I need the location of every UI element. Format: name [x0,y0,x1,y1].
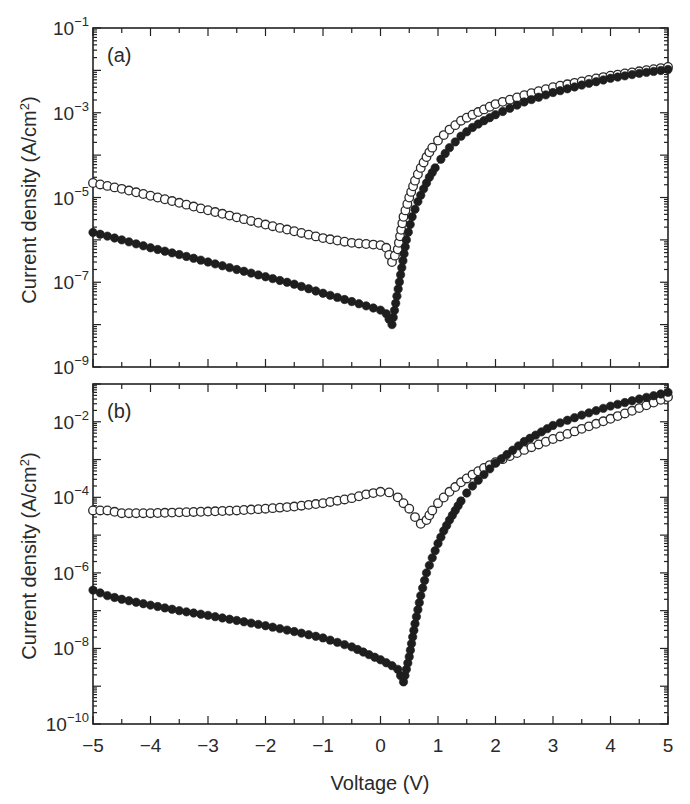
y-tick-label: 10−10 [46,710,89,735]
y-tick-label: 10−7 [53,268,89,293]
y-tick-label: 10−8 [53,634,89,659]
y-axis-title-a: Current density (A/cm2) [17,96,41,303]
panel-b: 10−210−410−610−810−10−5−4−3−2−1012345(b) [46,384,673,756]
x-axis-title: Voltage (V) [331,772,430,794]
x-tick-label: 4 [605,735,616,756]
x-tick-label: 2 [490,735,501,756]
y-tick-label: 10−2 [53,408,89,433]
y-tick-label: 10−1 [53,14,89,39]
y-tick-label: 10−9 [53,353,89,378]
x-tick-label: −3 [197,735,219,756]
series-open-circles-a [89,63,673,267]
series-filled-circles-b [89,388,672,686]
figure: 10−110−310−510−710−9(a) 10−210−410−610−8… [0,0,690,804]
y-tick-label: 10−6 [53,559,89,584]
x-tick-label: −2 [255,735,277,756]
iv-curves-chart: 10−110−310−510−710−9(a) 10−210−410−610−8… [0,0,690,804]
y-tick-label: 10−4 [53,483,89,508]
x-tick-label: 0 [375,735,386,756]
y-tick-label: 10−3 [53,99,89,124]
y-axis-title-b: Current density (A/cm2) [17,452,41,659]
plot-frame-b [93,384,668,724]
series-filled-circles-a [89,65,672,329]
x-tick-label: −4 [140,735,162,756]
x-tick-label: −5 [82,735,104,756]
y-tick-label: 10−5 [53,184,89,209]
x-tick-label: 1 [433,735,444,756]
panel-label-b: (b) [107,400,131,422]
x-tick-label: −1 [312,735,334,756]
panel-a: 10−110−310−510−710−9(a) [53,14,672,378]
x-tick-label: 3 [548,735,559,756]
panel-label-a: (a) [107,44,131,66]
x-tick-label: 5 [663,735,674,756]
